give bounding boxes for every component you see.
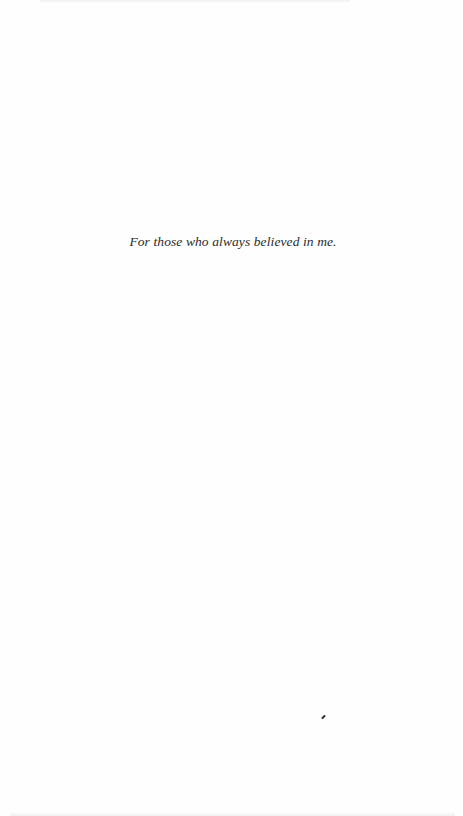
- dedication-text: For those who always believed in me.: [0, 233, 463, 251]
- ink-mark: [321, 715, 326, 720]
- scan-edge-top: [40, 0, 350, 3]
- book-page: For those who always believed in me.: [0, 0, 463, 816]
- scan-edge-bottom: [10, 812, 455, 816]
